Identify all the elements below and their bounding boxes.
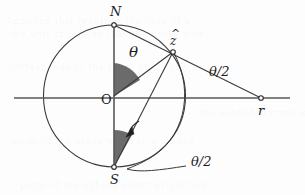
leader-curve-theta-half [127,53,185,169]
zhat-accent: ^ [171,28,180,39]
point-marker-zhat [171,50,176,55]
label-theta-half-right: θ/2 [209,65,229,78]
label-theta: θ [129,45,138,60]
label-south-pole: S [110,173,119,186]
leader-curve-tail [127,166,186,171]
label-theta-half-bottom: θ/2 [191,155,211,168]
label-zhat: ^ z [170,35,176,47]
point-marker-south [112,165,117,170]
stereographic-projection-figure: Applying this result to the case of a th… [0,0,305,195]
label-origin: O [101,93,112,106]
ray-north-to-r [114,25,261,98]
point-marker-north [112,23,117,28]
label-point-r: r [258,104,264,117]
rotation-arrow-head [126,127,134,137]
label-north-pole: N [110,5,121,18]
point-marker-r [259,96,264,101]
diagram-canvas [0,0,305,195]
